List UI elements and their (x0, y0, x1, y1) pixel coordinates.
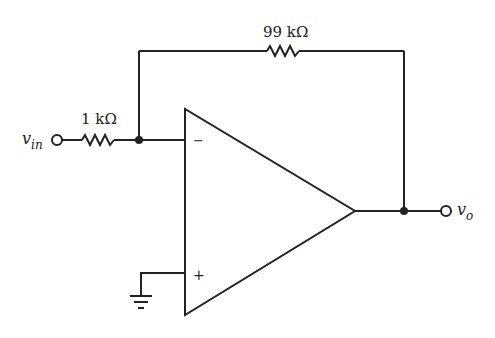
noninverting-sign: + (193, 267, 205, 283)
noninverting-input-wire (141, 273, 185, 295)
input-label: vin (22, 129, 43, 152)
feedback-resistor-label: 99 kΩ (263, 23, 308, 41)
input-resistor-label: 1 kΩ (81, 110, 117, 128)
output-label: vo (457, 200, 473, 223)
input-terminal[interactable] (52, 135, 62, 145)
circuit-diagram: 1 kΩ 99 kΩ − + vin vo (0, 0, 495, 338)
input-junction-dot (135, 136, 143, 144)
ground-icon (130, 296, 152, 308)
feedback-resistor (267, 46, 299, 56)
opamp-triangle (185, 109, 355, 315)
inverting-sign: − (193, 133, 204, 148)
input-resistor (82, 135, 114, 145)
output-junction-dot (400, 207, 408, 215)
output-terminal[interactable] (441, 206, 451, 216)
